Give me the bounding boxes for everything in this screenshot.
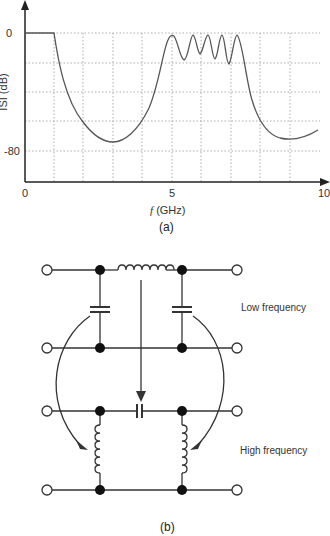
x-axis-symbol: f [150,204,153,216]
x-axis-unit: (GHz) [156,204,185,216]
isi-curve [25,33,318,142]
y-axis-arrow-icon [21,0,29,10]
chart-axes [25,8,320,182]
x-axis-arrow-icon [320,178,330,186]
chart-grid [25,33,320,182]
y-tick-0: 0 [6,27,12,39]
inductor-series-top [118,265,174,270]
caption-a: (a) [159,220,174,234]
x-tick-5: 5 [169,187,175,199]
arrow-down-icon [136,391,146,402]
circuit [52,265,232,490]
inductor-shunt-left [95,425,100,473]
inductor-shunt-right [182,425,187,473]
low-frequency-label: Low frequency [241,302,306,313]
x-tick-10: 10 [318,187,330,199]
y-tick-minus80: -80 [4,145,20,157]
y-axis-label: ISI (dB) [0,73,9,110]
x-axis-label: f (GHz) [150,204,185,216]
caption-b: (b) [160,520,175,534]
terminals [42,265,242,495]
x-tick-0: 0 [22,187,28,199]
high-frequency-label: High frequency [240,445,307,456]
